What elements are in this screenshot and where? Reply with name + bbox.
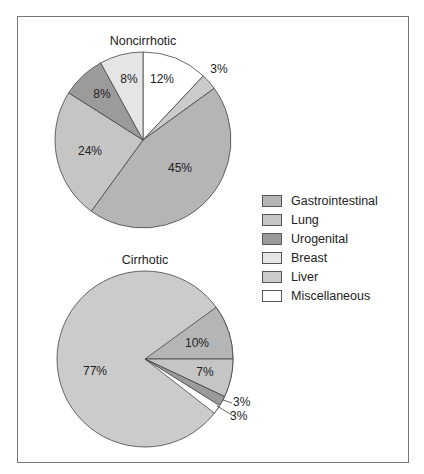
label-uro: 8% [93, 87, 111, 101]
legend-label: Miscellaneous [291, 289, 370, 303]
legend-label: Lung [291, 213, 319, 227]
legend-item-miscellaneous: Miscellaneous [262, 286, 378, 305]
legend-item-liver: Liver [262, 267, 378, 286]
label-breast: 8% [120, 72, 138, 86]
label-liver: 3% [210, 62, 228, 76]
legend-item-breast: Breast [262, 248, 378, 267]
legend-label: Breast [291, 251, 327, 265]
swatch-gastrointestinal [262, 195, 282, 207]
label-liver: 77% [83, 364, 107, 378]
swatch-liver [262, 271, 282, 283]
swatch-urogenital [262, 233, 282, 245]
label-misc: 12% [150, 72, 174, 86]
legend-item-gastrointestinal: Gastrointestinal [262, 191, 378, 210]
label-gi: 45% [168, 161, 192, 175]
label-misc: 3% [230, 409, 248, 423]
label-uro: 3% [233, 395, 251, 409]
legend: Gastrointestinal Lung Urogenital Breast … [262, 191, 378, 305]
legend-item-lung: Lung [262, 210, 378, 229]
swatch-lung [262, 214, 282, 226]
cirrhotic-title: Cirrhotic [122, 253, 169, 267]
legend-item-urogenital: Urogenital [262, 229, 378, 248]
legend-label: Gastrointestinal [291, 194, 378, 208]
swatch-breast [262, 252, 282, 264]
legend-label: Liver [291, 270, 318, 284]
label-gi: 10% [185, 336, 209, 350]
noncirrhotic-pie [55, 52, 231, 228]
cirrhotic-pie [57, 271, 233, 447]
leader-uro [223, 400, 232, 403]
legend-label: Urogenital [291, 232, 348, 246]
swatch-miscellaneous [262, 290, 282, 302]
label-lung: 24% [78, 144, 102, 158]
noncirrhotic-title: Noncirrhotic [110, 34, 177, 48]
label-lung: 7% [196, 365, 214, 379]
